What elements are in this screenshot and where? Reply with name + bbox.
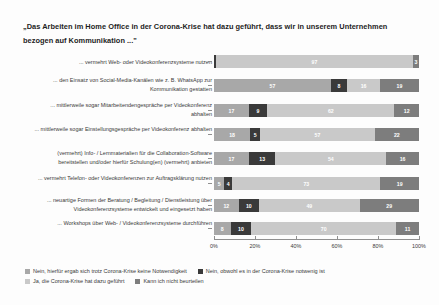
bar-segment[interactable]: 62 xyxy=(267,104,394,117)
axis-tick-mark xyxy=(214,236,215,240)
stacked-bar[interactable]: 12104929 xyxy=(214,199,419,212)
legend-label: Nein, obwohl es in der Corona-Krise notw… xyxy=(206,268,325,274)
bar-segment[interactable]: 10 xyxy=(239,199,260,212)
stacked-bar[interactable]: 973 xyxy=(214,55,419,68)
row-tick xyxy=(208,134,212,135)
bar-segment[interactable]: 70 xyxy=(251,222,396,235)
chart-row: ... vermehrt Telefon- oder Videokonferen… xyxy=(23,177,419,190)
x-axis-line xyxy=(214,239,419,240)
bar-segment[interactable]: 19 xyxy=(380,79,419,92)
row-tick xyxy=(208,110,212,111)
row-tick xyxy=(208,205,212,206)
legend-label: Ja, die Corona-Krise hat dazu geführt xyxy=(33,278,124,284)
chart-page: „Das Arbeiten im Home Office in der Coro… xyxy=(0,0,439,305)
row-tick xyxy=(208,158,212,159)
bar-segment[interactable]: 97 xyxy=(216,55,413,68)
bar-segment[interactable]: 4 xyxy=(224,177,232,190)
stacked-bar[interactable]: 1855722 xyxy=(214,128,419,141)
stacked-bar[interactable]: 1796212 xyxy=(214,104,419,117)
bar-segment[interactable]: 73 xyxy=(232,177,380,190)
chart-row: ... neuartige Formen der Beratung / Begl… xyxy=(23,199,419,212)
chart-row: ... vermehrt Web- oder Videokonferenzsys… xyxy=(23,55,419,68)
bar-segment[interactable]: 9 xyxy=(249,104,267,117)
legend-label: Kann ich nicht beurteilen xyxy=(143,278,203,284)
row-label: ... Workshops über Web- / Videokonferenz… xyxy=(30,219,212,228)
row-label: ... vermehrt Telefon- oder Videokonferen… xyxy=(30,174,212,183)
bar-segment[interactable]: 11 xyxy=(396,222,419,235)
row-tick xyxy=(208,61,212,62)
chart-row: ... den Einsatz von Social-Media-Kanälen… xyxy=(23,79,419,92)
legend-item[interactable]: Kann ich nicht beurteilen xyxy=(135,278,203,284)
chart-row: ... Workshops über Web- / Videokonferenz… xyxy=(23,222,419,235)
bar-segment[interactable]: 54 xyxy=(275,152,386,165)
bar-segment[interactable]: 8 xyxy=(214,222,231,235)
row-label: ... den Einsatz von Social-Media-Kanälen… xyxy=(30,76,212,93)
bar-segment[interactable]: 29 xyxy=(360,199,419,212)
stacked-bar[interactable]: 17135416 xyxy=(214,152,419,165)
bar-segment[interactable]: 22 xyxy=(375,128,419,141)
stacked-bar[interactable]: 547319 xyxy=(214,177,419,190)
axis-tick-label: 100% xyxy=(404,243,434,249)
row-tick xyxy=(208,228,212,229)
row-label: ... mittlerweile sogar Einstellungsgespr… xyxy=(30,125,212,134)
bar-segment[interactable]: 8 xyxy=(331,79,347,92)
legend-item[interactable]: Ja, die Corona-Krise hat dazu geführt xyxy=(25,278,124,284)
bar-segment[interactable]: 16 xyxy=(386,152,419,165)
axis-tick-label: 40% xyxy=(281,243,311,249)
chart-row: ... mittlerweile sogar Mitarbeitendenges… xyxy=(23,104,419,117)
bar-segment[interactable]: 16 xyxy=(347,79,380,92)
x-axis: 0%20%40%60%80%100% xyxy=(214,239,419,253)
stacked-bar[interactable]: 8107011 xyxy=(214,222,419,235)
axis-tick-label: 60% xyxy=(322,243,352,249)
axis-tick-mark xyxy=(378,236,379,240)
axis-tick-mark xyxy=(296,236,297,240)
bar-segment[interactable]: 12 xyxy=(394,104,419,117)
bar-segment[interactable]: 5 xyxy=(250,128,260,141)
legend-swatch-icon xyxy=(25,279,30,284)
chart-legend: Nein, hierfür ergab sich trotz Corona-Kr… xyxy=(25,268,425,288)
bar-segment[interactable]: 17 xyxy=(214,152,249,165)
axis-tick-mark xyxy=(337,236,338,240)
stacked-bar[interactable]: 5781619 xyxy=(214,79,419,92)
bar-segment[interactable]: 49 xyxy=(259,199,359,212)
legend-swatch-icon xyxy=(135,279,140,284)
legend-row-1: Nein, hierfür ergab sich trotz Corona-Kr… xyxy=(25,268,425,274)
row-label: (vermehrt) Info- / Lernmaterialien für d… xyxy=(30,149,212,166)
bar-segment[interactable]: 57 xyxy=(214,79,331,92)
axis-tick-label: 20% xyxy=(240,243,270,249)
bar-segment[interactable]: 12 xyxy=(214,199,239,212)
bar-segment[interactable]: 17 xyxy=(214,104,249,117)
bar-segment[interactable]: 57 xyxy=(260,128,375,141)
chart-row: (vermehrt) Info- / Lernmaterialien für d… xyxy=(23,152,419,165)
legend-row-2: Ja, die Corona-Krise hat dazu geführtKan… xyxy=(25,278,425,284)
chart-title: „Das Arbeiten im Home Office in der Coro… xyxy=(23,20,419,47)
row-label: ... mittlerweile sogar Mitarbeitendenges… xyxy=(30,101,212,118)
legend-swatch-icon xyxy=(25,269,30,274)
bar-segment[interactable]: 19 xyxy=(380,177,419,190)
chart-row: ... mittlerweile sogar Einstellungsgespr… xyxy=(23,128,419,141)
axis-tick-label: 80% xyxy=(363,243,393,249)
row-label: ... neuartige Formen der Beratung / Begl… xyxy=(30,196,212,213)
bar-segment[interactable]: 3 xyxy=(413,55,419,68)
bar-segment[interactable]: 10 xyxy=(231,222,252,235)
axis-tick-mark xyxy=(255,236,256,240)
legend-item[interactable]: Nein, obwohl es in der Corona-Krise notw… xyxy=(198,268,325,274)
bar-segment[interactable]: 5 xyxy=(214,177,224,190)
bar-segment[interactable]: 18 xyxy=(214,128,250,141)
legend-item[interactable]: Nein, hierfür ergab sich trotz Corona-Kr… xyxy=(25,268,187,274)
row-tick xyxy=(208,85,212,86)
legend-swatch-icon xyxy=(198,269,203,274)
row-tick xyxy=(208,183,212,184)
row-label: ... vermehrt Web- oder Videokonferenzsys… xyxy=(30,58,212,67)
legend-label: Nein, hierfür ergab sich trotz Corona-Kr… xyxy=(33,268,187,274)
axis-tick-label: 0% xyxy=(199,243,229,249)
bar-segment[interactable]: 13 xyxy=(249,152,276,165)
axis-tick-mark xyxy=(419,236,420,240)
chart-plot-area: ... vermehrt Web- oder Videokonferenzsys… xyxy=(23,52,419,234)
